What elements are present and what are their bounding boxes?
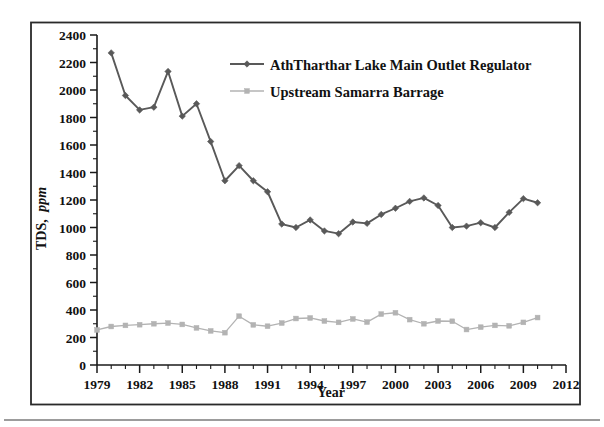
data-point-marker <box>322 319 327 324</box>
y-tick-label: 0 <box>79 358 86 373</box>
tds-vs-year-line-chart: 0200400600800100012001400160018002000220… <box>0 0 604 427</box>
data-point-marker <box>379 312 384 317</box>
data-point-marker <box>421 321 426 326</box>
data-point-marker <box>180 322 185 327</box>
legend-label: AthTharthar Lake Main Outlet Regulator <box>270 57 532 73</box>
svg-text:TDS, ppm: TDS, ppm <box>34 187 49 250</box>
y-tick-label: 1400 <box>59 166 86 181</box>
y-tick-label: 1800 <box>59 111 86 126</box>
y-tick-label: 2200 <box>59 56 86 71</box>
data-point-marker <box>208 329 213 334</box>
y-tick-label: 2400 <box>59 28 86 43</box>
data-point-marker <box>194 325 199 330</box>
y-axis-title-plain: TDS, <box>34 219 49 250</box>
y-axis-title: TDS, ppm <box>34 187 49 250</box>
data-point-marker <box>294 316 299 321</box>
data-point-marker <box>251 322 256 327</box>
data-point-marker <box>478 325 483 330</box>
x-tick-label: 1991 <box>254 377 281 392</box>
x-axis-title: Year <box>317 385 345 400</box>
data-point-marker <box>407 317 412 322</box>
data-point-marker <box>350 317 355 322</box>
y-tick-label: 400 <box>66 303 87 318</box>
y-tick-label: 2000 <box>59 83 86 98</box>
data-point-marker <box>464 327 469 332</box>
y-axis-title-units: ppm <box>34 187 49 213</box>
data-point-marker <box>493 323 498 328</box>
y-tick-label: 600 <box>66 276 87 291</box>
data-point-marker <box>109 324 114 329</box>
data-point-marker <box>265 324 270 329</box>
y-tick-label: 1600 <box>59 138 86 153</box>
data-point-marker <box>95 328 100 333</box>
x-tick-label: 2009 <box>510 377 537 392</box>
y-tick-label: 800 <box>66 248 87 263</box>
figure-root: 0200400600800100012001400160018002000220… <box>0 0 604 427</box>
data-point-marker <box>308 316 313 321</box>
data-point-marker <box>450 319 455 324</box>
legend-entry-1[interactable]: AthTharthar Lake Main Outlet Regulator <box>230 57 532 73</box>
data-point-marker <box>137 322 142 327</box>
x-tick-label: 1982 <box>126 377 153 392</box>
data-point-marker <box>365 320 370 325</box>
x-tick-label: 2003 <box>425 377 452 392</box>
data-point-marker <box>279 321 284 326</box>
data-point-marker <box>237 314 242 319</box>
y-tick-label: 1000 <box>59 221 86 236</box>
data-point-marker <box>507 323 512 328</box>
x-tick-label: 2012 <box>553 377 580 392</box>
x-tick-label: 2006 <box>467 377 494 392</box>
data-point-marker <box>151 321 156 326</box>
data-point-marker <box>436 319 441 324</box>
data-point-marker <box>245 89 250 94</box>
legend-label: Upstream Samarra Barrage <box>270 84 444 100</box>
data-point-marker <box>123 323 128 328</box>
data-point-marker <box>166 321 171 326</box>
y-tick-label: 1200 <box>59 193 86 208</box>
data-point-marker <box>535 315 540 320</box>
data-point-marker <box>521 320 526 325</box>
data-point-marker <box>336 320 341 325</box>
data-point-marker <box>223 330 228 335</box>
data-point-marker <box>393 310 398 315</box>
y-tick-label: 200 <box>66 331 87 346</box>
x-tick-label: 1979 <box>84 377 111 392</box>
x-tick-label: 1988 <box>211 377 238 392</box>
x-tick-label: 1985 <box>169 377 196 392</box>
x-tick-label: 2000 <box>382 377 409 392</box>
